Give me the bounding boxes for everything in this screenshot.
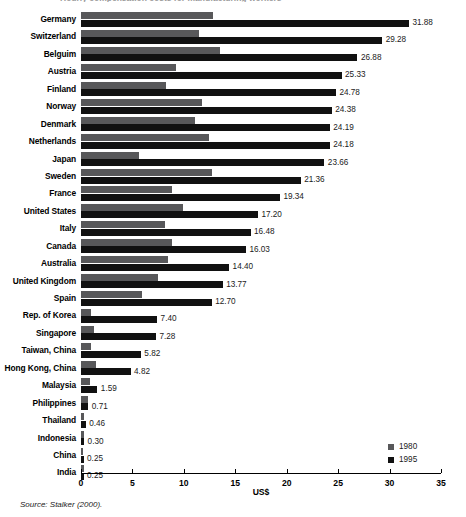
bar-value-label: 17.20 bbox=[258, 210, 282, 220]
bar-1980 bbox=[81, 186, 172, 193]
bar-1995 bbox=[81, 211, 258, 218]
chart-row: Thailand0.46 bbox=[0, 412, 466, 429]
bar-value-label: 0.30 bbox=[84, 437, 103, 447]
bar-1995 bbox=[81, 299, 212, 306]
bar-value-label: 24.38 bbox=[332, 105, 356, 115]
bar-1995 bbox=[81, 229, 251, 236]
category-label: Norway bbox=[0, 98, 76, 115]
bar-value-label: 0.46 bbox=[86, 419, 105, 429]
chart-row: Canada16.03 bbox=[0, 238, 466, 255]
chart-row: Philippines0.71 bbox=[0, 395, 466, 412]
category-label: Sweden bbox=[0, 168, 76, 185]
bar-group: 7.28 bbox=[81, 325, 466, 342]
bar-value-label: 26.88 bbox=[357, 53, 381, 63]
bar-value-label: 31.88 bbox=[409, 18, 433, 28]
category-label: France bbox=[0, 185, 76, 202]
bar-1995 bbox=[81, 107, 332, 114]
bar-1995 bbox=[81, 124, 330, 131]
chart-row: Malaysia1.59 bbox=[0, 377, 466, 394]
bar-1995 bbox=[81, 177, 301, 184]
x-axis-tick bbox=[81, 469, 82, 473]
category-label: Netherlands bbox=[0, 133, 76, 150]
bar-1995 bbox=[81, 281, 223, 288]
bar-1995 bbox=[81, 386, 97, 393]
bar-group: 21.36 bbox=[81, 168, 466, 185]
category-label: Indonesia bbox=[0, 430, 76, 447]
bar-group: 23.66 bbox=[81, 151, 466, 168]
bar-group: 26.88 bbox=[81, 46, 466, 63]
bar-group: 29.28 bbox=[81, 28, 466, 45]
category-label: Malaysia bbox=[0, 377, 76, 394]
bar-1980 bbox=[81, 413, 84, 420]
category-label: Italy bbox=[0, 220, 76, 237]
bar-1980 bbox=[81, 256, 168, 263]
chart-row: Rep. of Korea7.40 bbox=[0, 307, 466, 324]
chart-row: Austria25.33 bbox=[0, 63, 466, 80]
bar-value-label: 23.66 bbox=[324, 158, 348, 168]
bar-value-label: 19.34 bbox=[280, 192, 304, 202]
bar-group: 24.18 bbox=[81, 133, 466, 150]
bar-group: 24.78 bbox=[81, 81, 466, 98]
bar-1980 bbox=[81, 99, 202, 106]
bar-1995 bbox=[81, 246, 246, 253]
category-label: Philippines bbox=[0, 395, 76, 412]
category-label: United States bbox=[0, 203, 76, 220]
category-label: Taiwan, China bbox=[0, 342, 76, 359]
bar-1980 bbox=[81, 309, 91, 316]
bar-group: 14.40 bbox=[81, 255, 466, 272]
bar-1995 bbox=[81, 403, 88, 410]
bar-1995 bbox=[81, 368, 131, 375]
bar-1995 bbox=[81, 142, 330, 149]
chart-row: Germany31.88 bbox=[0, 11, 466, 28]
bar-group: 17.20 bbox=[81, 203, 466, 220]
chart-row: France19.34 bbox=[0, 185, 466, 202]
x-axis-label: US$ bbox=[81, 487, 441, 497]
category-label: Hong Kong, China bbox=[0, 360, 76, 377]
bar-value-label: 21.36 bbox=[301, 175, 325, 185]
bar-1980 bbox=[81, 30, 199, 37]
plot-area: Germany31.88Switzerland29.28Belguim26.88… bbox=[0, 11, 466, 482]
x-axis-tick bbox=[184, 469, 185, 473]
bar-group: 12.70 bbox=[81, 290, 466, 307]
chart-legend: 19801995 bbox=[388, 440, 444, 466]
bar-group: 25.33 bbox=[81, 63, 466, 80]
category-label: Switzerland bbox=[0, 28, 76, 45]
bar-value-label: 7.40 bbox=[157, 314, 176, 324]
bar-1995 bbox=[81, 333, 156, 340]
chart-row: Norway24.38 bbox=[0, 98, 466, 115]
bar-1980 bbox=[81, 152, 139, 159]
bar-value-label: 13.77 bbox=[223, 280, 247, 290]
bar-group: 16.03 bbox=[81, 238, 466, 255]
chart-row: Spain12.70 bbox=[0, 290, 466, 307]
x-axis-tick bbox=[287, 469, 288, 473]
bar-1980 bbox=[81, 204, 183, 211]
legend-item-1995[interactable]: 1995 bbox=[388, 453, 444, 466]
category-label: Rep. of Korea bbox=[0, 307, 76, 324]
category-label: Australia bbox=[0, 255, 76, 272]
bar-group: 4.82 bbox=[81, 360, 466, 377]
bar-value-label: 1.59 bbox=[97, 384, 116, 394]
bar-1980 bbox=[81, 274, 158, 281]
bar-1980 bbox=[81, 12, 213, 19]
bar-group: 0.71 bbox=[81, 395, 466, 412]
bar-1995 bbox=[81, 351, 141, 358]
bar-value-label: 0.71 bbox=[88, 402, 107, 412]
bar-chart-figure: Hourly compensation costs for manufactur… bbox=[0, 0, 466, 517]
bar-value-label: 16.48 bbox=[251, 227, 275, 237]
chart-row: Taiwan, China5.82 bbox=[0, 342, 466, 359]
legend-label: 1980 bbox=[399, 442, 417, 451]
chart-row: Denmark24.19 bbox=[0, 116, 466, 133]
bar-value-label: 24.18 bbox=[330, 140, 354, 150]
bar-1995 bbox=[81, 54, 357, 61]
category-label: United Kingdom bbox=[0, 273, 76, 290]
legend-item-1980[interactable]: 1980 bbox=[388, 440, 444, 453]
bar-group: 24.38 bbox=[81, 98, 466, 115]
category-label: Japan bbox=[0, 151, 76, 168]
chart-row: Netherlands24.18 bbox=[0, 133, 466, 150]
chart-row: Belguim26.88 bbox=[0, 46, 466, 63]
bar-value-label: 14.40 bbox=[229, 262, 253, 272]
bar-value-label: 0.25 bbox=[84, 454, 103, 464]
bar-1995 bbox=[81, 194, 280, 201]
bar-1995 bbox=[81, 316, 157, 323]
bar-1980 bbox=[81, 82, 166, 89]
